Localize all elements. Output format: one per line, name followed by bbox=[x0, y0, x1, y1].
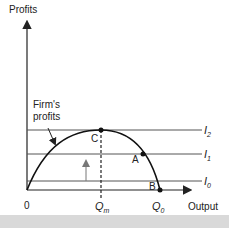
i1-label: I1 bbox=[204, 148, 211, 162]
qm-label: Qm bbox=[95, 200, 110, 214]
point-c-label: C bbox=[91, 133, 98, 144]
point-a bbox=[141, 152, 146, 157]
profit-diagram: Profits Firm's profits C A B 0 Qm Q0 Out… bbox=[0, 0, 229, 228]
q0-label: Q0 bbox=[152, 200, 165, 214]
point-a-label: A bbox=[132, 154, 139, 165]
y-axis-label: Profits bbox=[9, 4, 37, 15]
i0-label: I0 bbox=[204, 175, 211, 189]
x-axis-label: Output bbox=[188, 201, 218, 212]
firm-profits-label-1: Firm's bbox=[33, 99, 60, 110]
point-b-label: B bbox=[149, 181, 156, 192]
point-c bbox=[99, 128, 104, 133]
origin-label: 0 bbox=[24, 200, 30, 211]
i2-label: I2 bbox=[204, 124, 211, 138]
bottom-bar bbox=[0, 215, 229, 228]
point-q0 bbox=[158, 188, 163, 193]
firm-profits-label-2: profits bbox=[33, 111, 60, 122]
